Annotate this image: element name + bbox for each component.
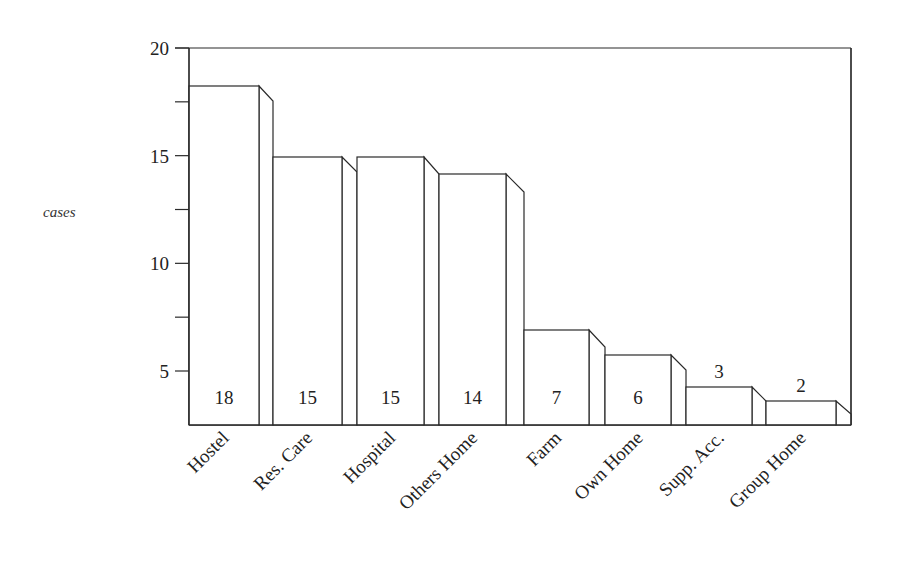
bar-chart: cases 2015105 181515147632 HostelRes. Ca… xyxy=(0,0,900,575)
bar-front-face xyxy=(357,157,424,425)
bars: 181515147632 xyxy=(189,48,851,425)
bar-side-face xyxy=(259,86,273,425)
bar-farm: 7 xyxy=(524,330,605,425)
bar-value-label: 7 xyxy=(552,387,562,408)
bar-value-label: 6 xyxy=(633,387,643,408)
bar-hostel: 18 xyxy=(189,86,273,425)
bar-side-face xyxy=(506,174,524,425)
bar-hospital: 15 xyxy=(357,157,439,425)
bar-front-face xyxy=(273,157,342,425)
y-axis-label: cases xyxy=(43,204,76,220)
bar-value-label: 18 xyxy=(215,387,234,408)
x-tick-label: Farm xyxy=(522,427,565,470)
bar-front-face xyxy=(766,401,836,425)
x-tick-label: Res. Care xyxy=(249,427,316,494)
bar-value-label: 2 xyxy=(796,375,806,396)
bar-side-face xyxy=(836,401,851,425)
bar-side-face xyxy=(589,330,605,425)
bar-group-home: 2 xyxy=(766,375,851,425)
bar-value-label: 3 xyxy=(714,361,724,382)
bar-front-face xyxy=(686,387,752,425)
bar-front-face xyxy=(524,330,589,425)
bar-res-care: 15 xyxy=(273,157,357,425)
bar-value-label: 15 xyxy=(381,387,400,408)
x-tick-label: Supp. Acc. xyxy=(654,427,727,500)
y-tick-label: 10 xyxy=(150,253,169,274)
bar-value-label: 15 xyxy=(298,387,317,408)
x-tick-label: Others Home xyxy=(394,427,481,514)
bar-others-home: 14 xyxy=(439,174,524,425)
bar-side-face xyxy=(342,157,357,425)
x-tick-label: Hospital xyxy=(339,427,399,487)
x-tick-label: Own Home xyxy=(570,427,647,504)
y-axis-ticks: 2015105 xyxy=(150,38,189,382)
bar-value-label: 14 xyxy=(463,387,483,408)
bar-side-face xyxy=(424,157,439,425)
bar-front-face xyxy=(189,86,259,425)
bar-supp-acc: 3 xyxy=(686,361,766,425)
x-tick-label: Hostel xyxy=(183,427,233,477)
bar-side-face xyxy=(671,355,686,425)
y-tick-label: 15 xyxy=(150,146,169,167)
y-tick-label: 5 xyxy=(160,361,170,382)
bar-side-face xyxy=(752,387,766,425)
bar-own-home: 6 xyxy=(605,355,686,425)
y-tick-label: 20 xyxy=(150,38,169,59)
x-axis-labels: HostelRes. CareHospitalOthers HomeFarmOw… xyxy=(183,427,810,514)
x-tick-label: Group Home xyxy=(724,427,809,512)
